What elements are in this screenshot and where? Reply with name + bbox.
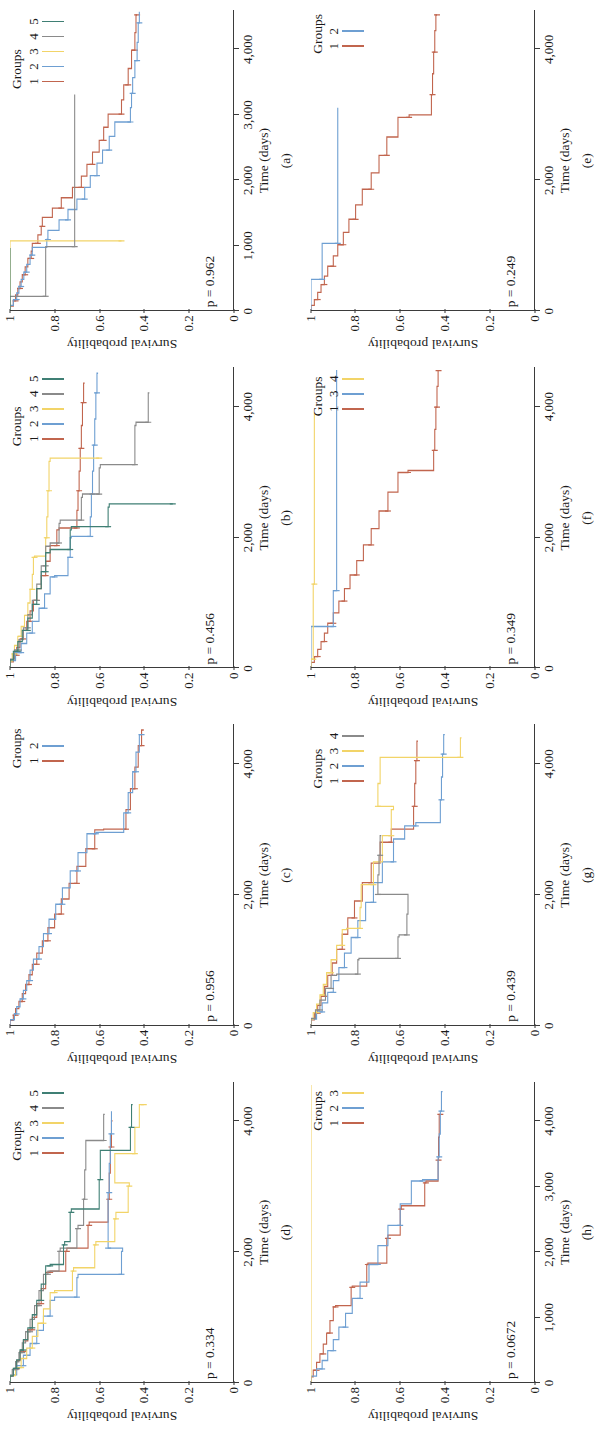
legend-color-swatch xyxy=(42,423,64,425)
panel-tag: (e) xyxy=(579,10,595,311)
x-tick-label: 0 xyxy=(541,1380,557,1387)
legend-item-group-2[interactable]: 2 xyxy=(27,59,64,74)
legend-item-group-4[interactable]: 4 xyxy=(327,729,364,744)
x-tick-label: 4,000 xyxy=(541,1106,557,1135)
legend-color-swatch xyxy=(42,1152,64,1154)
x-tick-label: 1,000 xyxy=(541,1303,557,1332)
y-tick-label: 1 xyxy=(2,315,18,322)
legend-items: 12 xyxy=(27,729,64,769)
y-tick-label: 0.8 xyxy=(47,315,63,331)
legend-item-label: 3 xyxy=(327,391,340,398)
legend-item-group-3[interactable]: 3 xyxy=(327,744,364,759)
legend-item-group-2[interactable]: 2 xyxy=(327,1101,364,1116)
x-tick-mark xyxy=(234,1382,239,1383)
legend-item-group-1[interactable]: 1 xyxy=(27,1146,64,1161)
legend-item-label: 1 xyxy=(27,78,40,85)
legend-item-group-1[interactable]: 1 xyxy=(27,74,64,89)
panel-tag: (b) xyxy=(278,367,294,668)
legend-item-label: 2 xyxy=(327,763,340,770)
legend-color-swatch xyxy=(342,30,364,32)
y-tick-label: 0 xyxy=(527,1387,543,1394)
y-tick-label: 0.2 xyxy=(181,1030,197,1046)
x-tick-label: 0 xyxy=(240,1023,256,1030)
panel-inner-d: Survival probability10.80.60.40.2002,000… xyxy=(6,1076,299,1425)
legend-items: 12345 xyxy=(27,371,64,446)
legend-item-group-5[interactable]: 5 xyxy=(27,14,64,29)
legend-item-label: 1 xyxy=(27,1150,40,1157)
y-tick-label: 0.2 xyxy=(181,673,197,689)
x-tick-mark xyxy=(535,310,540,311)
y-tick-label: 0.6 xyxy=(92,315,108,331)
legend-color-swatch xyxy=(42,36,64,38)
legend: Groups12 xyxy=(10,729,64,769)
legend-color-swatch xyxy=(342,1107,364,1109)
legend-item-label: 4 xyxy=(27,33,40,40)
legend-item-group-2[interactable]: 2 xyxy=(327,24,364,39)
legend: Groups134 xyxy=(311,371,365,416)
panel-h: Survival probability10.80.60.40.2001,000… xyxy=(301,1072,601,1429)
y-axis-ticks: 10.80.60.40.20 xyxy=(307,671,539,697)
y-tick-label: 0.4 xyxy=(136,315,152,331)
x-axis-ticks: 02,0004,000 xyxy=(541,725,557,1026)
x-axis-label: Time (days) xyxy=(557,10,573,311)
legend-item-group-5[interactable]: 5 xyxy=(27,371,64,386)
x-tick-label: 4,000 xyxy=(541,749,557,778)
legend-item-group-3[interactable]: 3 xyxy=(327,1086,364,1101)
legend-item-group-4[interactable]: 4 xyxy=(27,29,64,44)
legend-item-group-2[interactable]: 2 xyxy=(27,416,64,431)
x-tick-label: 4,000 xyxy=(240,35,256,64)
legend-title: Groups xyxy=(10,1086,24,1161)
legend-item-label: 3 xyxy=(327,748,340,755)
legend-item-group-4[interactable]: 4 xyxy=(327,371,364,386)
legend-item-group-3[interactable]: 3 xyxy=(27,1116,64,1131)
legend-item-group-1[interactable]: 1 xyxy=(327,39,364,54)
legend-item-group-2[interactable]: 2 xyxy=(327,759,364,774)
legend-color-swatch xyxy=(42,81,64,83)
y-tick-label: 0.2 xyxy=(482,315,498,331)
x-tick-label: 0 xyxy=(240,665,256,672)
y-tick-label: 1 xyxy=(303,673,319,680)
legend-item-group-2[interactable]: 2 xyxy=(27,1131,64,1146)
legend-item-group-1[interactable]: 1 xyxy=(327,1116,364,1131)
legend-item-group-3[interactable]: 3 xyxy=(27,44,64,59)
legend-item-group-2[interactable]: 2 xyxy=(27,738,64,753)
legend-title: Groups xyxy=(311,371,325,416)
x-tick-mark xyxy=(535,894,540,895)
legend-item-group-1[interactable]: 1 xyxy=(327,774,364,789)
x-tick-label: 2,000 xyxy=(541,523,557,552)
legend-item-group-3[interactable]: 3 xyxy=(27,401,64,416)
legend-items: 12 xyxy=(327,14,364,54)
x-tick-label: 0 xyxy=(541,1023,557,1030)
legend-item-group-4[interactable]: 4 xyxy=(27,386,64,401)
legend-color-swatch xyxy=(42,378,64,380)
legend-item-label: 2 xyxy=(27,63,40,70)
panel-tag: (g) xyxy=(579,725,595,1026)
p-value-annotation: p = 0.0672 xyxy=(503,1321,519,1379)
legend-item-group-3[interactable]: 3 xyxy=(327,386,364,401)
legend-title: Groups xyxy=(311,14,325,54)
x-tick-mark xyxy=(535,48,540,49)
y-tick-label: 0 xyxy=(527,1030,543,1037)
legend-color-swatch xyxy=(42,1092,64,1094)
x-tick-label: 4,000 xyxy=(541,35,557,64)
legend-color-swatch xyxy=(342,735,364,737)
panel-c: Survival probability10.80.60.40.2002,000… xyxy=(0,715,301,1072)
panel-inner-h: Survival probability10.80.60.40.2001,000… xyxy=(307,1076,600,1425)
y-axis-ticks: 10.80.60.40.20 xyxy=(307,313,539,339)
legend-item-group-1[interactable]: 1 xyxy=(27,431,64,446)
legend-color-swatch xyxy=(42,21,64,23)
legend-color-swatch xyxy=(342,408,364,410)
y-axis-ticks: 10.80.60.40.20 xyxy=(307,1028,539,1054)
x-axis-label: Time (days) xyxy=(256,725,272,1026)
y-tick-label: 0.6 xyxy=(392,1030,408,1046)
legend-item-label: 1 xyxy=(327,1120,340,1127)
x-tick-label: 2,000 xyxy=(240,166,256,195)
y-tick-label: 0.8 xyxy=(347,1030,363,1046)
y-axis-label: Survival probability xyxy=(307,337,539,351)
legend-color-swatch xyxy=(42,1122,64,1124)
legend-item-group-1[interactable]: 1 xyxy=(327,401,364,416)
legend-item-group-5[interactable]: 5 xyxy=(27,1086,64,1101)
legend-items: 1234 xyxy=(327,729,364,789)
legend-item-group-4[interactable]: 4 xyxy=(27,1101,64,1116)
legend-item-group-1[interactable]: 1 xyxy=(27,753,64,768)
